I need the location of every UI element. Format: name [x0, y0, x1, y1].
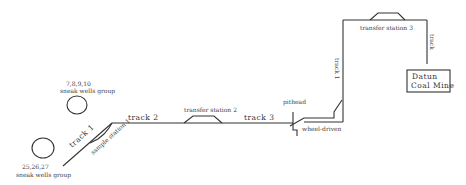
- track2-label: track 2: [128, 113, 158, 122]
- pithead-switch: [293, 118, 297, 136]
- diagram-canvas: 7,8,9,10 sneak wells group 25,26,27 snea…: [0, 0, 466, 185]
- track-right-vertical-label: track 1: [334, 58, 341, 80]
- wells-group-bottom-ids: 25,26,27: [22, 163, 49, 170]
- wheel-driven-label: wheel-driven: [302, 125, 342, 132]
- transfer-station2-bypass: [184, 116, 222, 123]
- track4-label: track: [429, 34, 436, 50]
- pithead-label: pithead: [283, 98, 306, 106]
- wells-group-top-circle: [67, 96, 87, 114]
- coal-mine-line2: Coal Mine: [411, 81, 454, 90]
- track3-label: track 3: [244, 113, 274, 122]
- wells-group-top-name: sneak wells group: [60, 87, 115, 95]
- track1-label: track 1: [67, 122, 96, 149]
- wells-group-top-ids: 7,8,9,10: [66, 80, 91, 87]
- wells-group-bottom-circle: [32, 138, 54, 158]
- transfer-station3-label: transfer station 3: [360, 24, 413, 31]
- track-diagram: 7,8,9,10 sneak wells group 25,26,27 snea…: [0, 0, 466, 185]
- transfer-station3-bypass: [370, 13, 405, 20]
- transfer-station2-label: transfer station 2: [184, 106, 237, 113]
- wells-group-bottom-name: sneak wells group: [16, 171, 71, 179]
- coal-mine-line1: Datun: [412, 72, 438, 81]
